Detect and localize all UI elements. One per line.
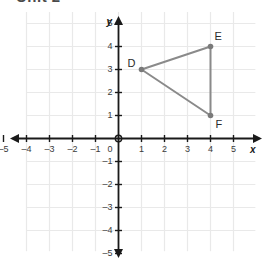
vertex-label-e: E	[215, 31, 222, 42]
y-tick-label: 3	[93, 65, 113, 74]
y-axis-label: y	[107, 17, 113, 27]
vertex-label-d: D	[128, 58, 136, 69]
y-tick-label: –3	[93, 203, 113, 212]
coordinate-grid-svg	[0, 0, 271, 266]
triangle-def	[142, 47, 211, 116]
y-tick-label: –1	[93, 157, 113, 166]
grid-lines	[27, 12, 256, 251]
vertex-label-f: F	[216, 119, 223, 130]
y-tick-label: –2	[93, 180, 113, 189]
x-tick-label: –3	[41, 145, 59, 154]
x-tick-label: –2	[64, 145, 82, 154]
coordinate-plane-figure: Unit 2 –5–4–3–2–11234554321–1–2–3–4–50xy…	[0, 0, 271, 266]
y-tick-label: 1	[93, 111, 113, 120]
y-tick-label: –5	[93, 249, 113, 258]
x-axis-label: x	[250, 145, 256, 155]
x-tick-label: –4	[18, 145, 36, 154]
axis-lines	[10, 16, 262, 258]
y-tick-label: 4	[93, 42, 113, 51]
y-tick-label: –4	[93, 226, 113, 235]
vertex-dots	[139, 44, 214, 119]
x-tick-label: –5	[0, 145, 13, 154]
y-tick-label: 2	[93, 88, 113, 97]
x-tick-label: 1	[133, 145, 151, 154]
x-tick-label: 5	[225, 145, 243, 154]
origin-label: 0	[99, 145, 113, 154]
x-tick-label: 4	[202, 145, 220, 154]
x-tick-label: 3	[179, 145, 197, 154]
x-tick-label: 2	[156, 145, 174, 154]
